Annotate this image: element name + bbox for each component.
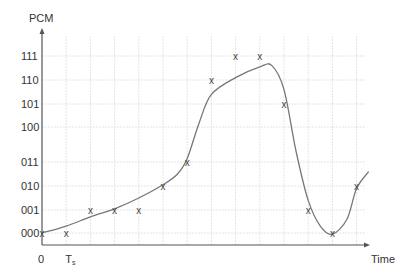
sample-mark: x (257, 51, 262, 62)
sample-mark: x (330, 228, 335, 239)
sample-mark: x (209, 75, 214, 86)
y-tick-label: 000 (21, 227, 39, 239)
x-axis-label: Time (371, 253, 395, 265)
y-tick-label: 111 (21, 50, 38, 62)
sample-mark: x (64, 228, 69, 239)
x-tick-labels: 0Ts (38, 253, 76, 266)
sample-mark: x (88, 205, 93, 216)
y-axis-arrow-icon (40, 28, 45, 34)
sample-mark: x (354, 181, 359, 192)
x-axis-arrow-icon (364, 243, 370, 248)
sample-mark: x (185, 157, 190, 168)
y-tick-label: 011 (21, 156, 39, 168)
y-tick-label: 010 (21, 180, 39, 192)
sample-mark: x (306, 205, 311, 216)
y-tick-labels: 000001010011100101110111 (21, 50, 39, 239)
x-tick-label: Ts (65, 253, 76, 266)
y-tick-label: 101 (21, 98, 39, 110)
sample-mark: x (40, 228, 45, 239)
y-axis-label: PCM (29, 12, 53, 24)
y-tick-label: 110 (21, 74, 39, 86)
sample-mark: x (161, 181, 166, 192)
sample-mark: x (282, 99, 287, 110)
sample-mark: x (112, 205, 117, 216)
sample-mark: x (233, 51, 238, 62)
sample-mark: x (136, 205, 141, 216)
y-tick-label: 001 (21, 204, 39, 216)
pcm-chart: PCM Time 000001010011100101110111 0Ts xx… (0, 0, 409, 275)
x-tick-label: 0 (38, 253, 44, 265)
y-tick-label: 100 (21, 121, 39, 133)
